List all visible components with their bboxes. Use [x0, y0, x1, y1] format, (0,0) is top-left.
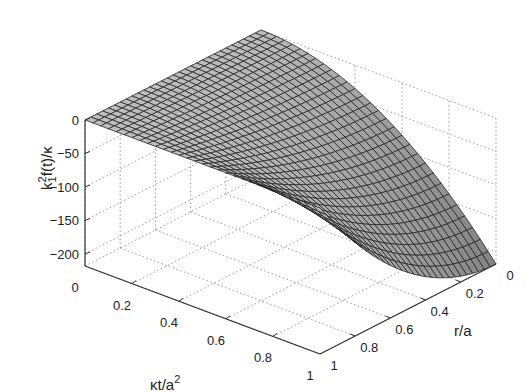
svg-text:−150: −150 [50, 213, 79, 228]
svg-text:0.8: 0.8 [360, 340, 378, 355]
svg-text:0: 0 [71, 280, 78, 295]
svg-text:0.2: 0.2 [466, 286, 484, 301]
y-axis-label: r/a [454, 322, 472, 339]
svg-text:1: 1 [306, 368, 313, 383]
svg-text:−200: −200 [50, 247, 79, 262]
svg-text:0: 0 [72, 113, 79, 128]
surface-mesh [85, 30, 496, 278]
svg-text:0: 0 [506, 268, 513, 283]
surface-plot: 0−50−100−150−20000.20.40.60.8100.20.40.6… [0, 0, 532, 392]
svg-text:0.2: 0.2 [113, 298, 131, 313]
svg-text:−50: −50 [57, 146, 79, 161]
svg-text:0.8: 0.8 [254, 350, 272, 365]
svg-text:1: 1 [330, 358, 337, 373]
svg-text:0.6: 0.6 [395, 322, 413, 337]
svg-text:0.4: 0.4 [160, 315, 178, 330]
z-axis-label: k21f(t)/κ [36, 146, 58, 190]
svg-text:0.6: 0.6 [207, 333, 225, 348]
x-axis-label: κt/a2 [150, 373, 180, 392]
svg-text:0.4: 0.4 [431, 304, 449, 319]
